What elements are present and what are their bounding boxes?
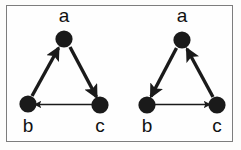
- figure-container: a b c a b c: [0, 0, 241, 150]
- node-label-left-c: c: [89, 116, 111, 135]
- node-label-right-c: c: [206, 116, 228, 135]
- node-c[interactable]: [91, 96, 108, 113]
- edge-b-to-a: [32, 48, 59, 96]
- edge-a-to-c: [70, 47, 97, 97]
- node-a[interactable]: [55, 30, 72, 47]
- node-label-right-b: b: [136, 116, 158, 135]
- node-c[interactable]: [208, 96, 225, 113]
- node-a[interactable]: [173, 31, 190, 48]
- node-b[interactable]: [138, 96, 155, 113]
- edge-a-to-b: [151, 48, 177, 97]
- node-label-right-a: a: [171, 6, 193, 25]
- right-graph: [138, 31, 225, 113]
- left-graph: [19, 30, 108, 113]
- edge-c-to-a: [187, 49, 213, 97]
- node-label-left-a: a: [53, 6, 75, 25]
- node-b[interactable]: [19, 95, 36, 112]
- node-label-left-b: b: [17, 116, 39, 135]
